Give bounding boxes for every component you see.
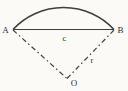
label-center-o: O (71, 78, 78, 88)
label-chord-c: c (63, 33, 67, 43)
arc-a-b (13, 8, 114, 30)
diagram-canvas: A B O c r (0, 0, 128, 91)
label-point-b: B (117, 25, 123, 35)
sector-diagram: A B O c r (0, 0, 128, 91)
radius-line-left (13, 30, 67, 79)
label-radius-r: r (91, 55, 94, 65)
label-point-a: A (2, 25, 9, 35)
